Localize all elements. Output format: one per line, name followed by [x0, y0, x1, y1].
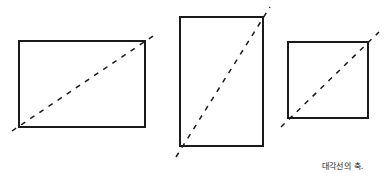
diagonal-axis-line — [12, 34, 156, 131]
figure-horizontal-rectangle — [12, 34, 156, 131]
diagonal-axis-diagram — [0, 0, 390, 183]
square-outline — [288, 42, 368, 118]
figure-vertical-rectangle — [176, 7, 270, 157]
diagonal-axis-line — [176, 7, 270, 157]
figure-caption: 대각선의 축. — [322, 160, 364, 171]
rectangle-outline — [180, 17, 263, 146]
figure-square — [281, 32, 379, 127]
rectangle-outline — [19, 41, 145, 127]
diagonal-axis-line — [281, 32, 379, 127]
